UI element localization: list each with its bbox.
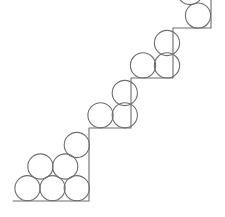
packed-circle (154, 30, 179, 55)
packed-circle (40, 176, 65, 201)
packed-circle (64, 132, 89, 157)
packed-circle (154, 53, 179, 78)
packed-circle (130, 53, 155, 78)
packed-circle (112, 80, 137, 105)
packed-circle (185, 3, 210, 28)
packed-circle (15, 176, 40, 201)
packed-circle (88, 103, 113, 128)
staircase-circle-packing-figure (0, 0, 225, 217)
packed-circle (28, 154, 53, 179)
packed-circle (64, 176, 89, 201)
packed-circle (112, 103, 137, 128)
figure-root (0, 0, 225, 217)
